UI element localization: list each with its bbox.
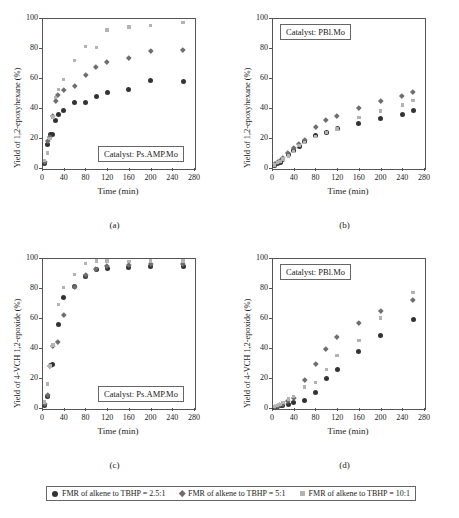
x-tick-mark	[64, 408, 65, 411]
y-tick-label: 100	[16, 13, 38, 22]
data-point	[43, 159, 46, 162]
y-tick-mark	[39, 18, 42, 19]
data-point	[54, 96, 57, 99]
data-point	[51, 343, 54, 346]
x-tick-label: 40	[282, 413, 306, 422]
data-point	[314, 381, 317, 384]
data-point	[378, 333, 383, 338]
x-tick-label: 280	[182, 413, 206, 422]
x-tick-mark	[402, 168, 403, 171]
y-tick-label: 80	[16, 43, 38, 52]
x-tick-label: 120	[325, 173, 349, 182]
x-tick-label: 160	[347, 413, 371, 422]
y-tick-mark	[39, 138, 42, 139]
x-tick-mark	[107, 168, 108, 171]
x-tick-mark	[172, 168, 173, 171]
y-tick-mark	[269, 78, 272, 79]
x-tick-mark	[381, 408, 382, 411]
data-point	[84, 262, 87, 265]
catalyst-annotation: Catalyst: PBl.Mo	[280, 264, 351, 280]
data-point	[356, 121, 361, 126]
legend-item-1: FMR of alkene to TBHP = 5:1	[180, 489, 286, 498]
data-point	[149, 24, 152, 27]
data-point	[335, 127, 338, 130]
x-tick-label: 0	[30, 413, 54, 422]
x-tick-mark	[194, 168, 195, 171]
data-point	[324, 376, 329, 381]
y-tick-label: 100	[16, 253, 38, 262]
data-point	[303, 141, 306, 144]
x-tick-mark	[315, 408, 316, 411]
data-point	[148, 78, 153, 83]
plot-area: 02040608010004080120160200240280Time (mi…	[0, 0, 229, 212]
subplot-label: (d)	[230, 460, 459, 470]
data-point	[292, 395, 295, 398]
data-point	[95, 259, 98, 262]
legend-marker-circle-icon	[52, 491, 58, 497]
x-tick-label: 240	[390, 173, 414, 182]
data-point	[46, 382, 49, 385]
subplot-label: (b)	[230, 220, 459, 230]
x-tick-mark	[194, 408, 195, 411]
x-tick-label: 0	[260, 173, 284, 182]
x-tick-label: 240	[160, 173, 184, 182]
data-point	[379, 109, 382, 112]
x-tick-label: 0	[260, 413, 284, 422]
legend-marker-diamond-icon	[179, 490, 185, 496]
legend-item-2: FMR of alkene to TBHP = 10:1	[300, 489, 410, 498]
data-point	[335, 367, 340, 372]
figure-container: 02040608010004080120160200240280Time (mi…	[0, 0, 459, 518]
x-tick-label: 200	[369, 413, 393, 422]
data-point	[287, 397, 290, 400]
legend-marker-square-icon	[300, 491, 305, 496]
panel-d: 02040608010004080120160200240280Time (mi…	[230, 240, 459, 478]
y-tick-label: 80	[16, 283, 38, 292]
x-tick-label: 40	[52, 413, 76, 422]
legend-label-2: FMR of alkene to TBHP = 10:1	[309, 489, 410, 498]
x-tick-label: 280	[182, 173, 206, 182]
x-tick-mark	[129, 168, 130, 171]
axes-frame	[272, 258, 426, 410]
data-point	[73, 273, 76, 276]
x-tick-mark	[85, 408, 86, 411]
y-tick-mark	[269, 378, 272, 379]
data-point	[281, 157, 284, 160]
x-tick-label: 80	[73, 413, 97, 422]
x-tick-label: 200	[369, 173, 393, 182]
data-point	[181, 259, 184, 262]
x-tick-mark	[172, 408, 173, 411]
y-tick-label: 80	[246, 283, 268, 292]
data-point	[181, 79, 186, 84]
x-axis-label: Time (min)	[42, 426, 194, 436]
data-point	[43, 400, 46, 403]
data-point	[281, 401, 284, 404]
data-point	[313, 390, 318, 395]
y-tick-mark	[39, 348, 42, 349]
y-tick-mark	[269, 48, 272, 49]
data-point	[411, 99, 414, 102]
legend-label-0: FMR of alkene to TBHP = 2.5:1	[62, 489, 165, 498]
x-tick-label: 280	[412, 173, 436, 182]
data-point	[62, 286, 65, 289]
x-tick-mark	[129, 408, 130, 411]
x-tick-mark	[294, 168, 295, 171]
x-tick-mark	[359, 168, 360, 171]
catalyst-annotation: Catalyst: PBl.Mo	[280, 24, 351, 40]
data-point	[73, 59, 76, 62]
data-point	[127, 25, 130, 28]
data-point	[325, 131, 328, 134]
x-tick-label: 0	[30, 173, 54, 182]
x-tick-label: 80	[303, 173, 327, 182]
data-point	[379, 316, 382, 319]
plot-area: 02040608010004080120160200240280Time (mi…	[230, 240, 459, 452]
x-tick-mark	[337, 408, 338, 411]
x-tick-mark	[42, 168, 43, 171]
x-tick-mark	[85, 168, 86, 171]
data-point	[105, 90, 110, 95]
y-tick-mark	[269, 288, 272, 289]
data-point	[287, 154, 290, 157]
x-tick-label: 160	[347, 173, 371, 182]
x-tick-label: 80	[73, 173, 97, 182]
data-point	[95, 46, 98, 49]
plot-area: 02040608010004080120160200240280Time (mi…	[230, 0, 459, 212]
